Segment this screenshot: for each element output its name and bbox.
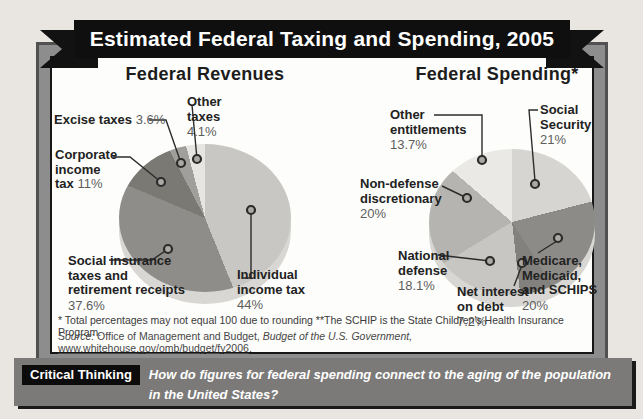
label-national-defense-value: 18.1% [398,279,460,294]
label-excise-taxes-value: 3.6% [136,112,166,127]
label-social-insurance: Social insurance taxes and retirement re… [68,254,194,313]
ribbon-band: Estimated Federal Taxing and Spending, 2… [74,20,570,58]
source-publication: Budget of the U.S. Government, [263,330,412,342]
label-corporate-tax: Corporate income tax 11% [55,148,115,192]
label-social-security-value: 21% [540,133,598,148]
label-other-entitlements: Other entitlements 13.7% [390,108,478,153]
label-social-security-name: Social Security [540,102,591,132]
textbook-figure-page: Federal Revenues Federal Spending* [0,0,643,419]
label-individual-tax-name: Individual income tax [237,267,305,297]
source-suffix: . [249,342,252,354]
label-national-defense-name: National defense [398,248,449,278]
label-corporate-tax-value: 11% [77,176,102,191]
label-excise-taxes: Excise taxes 3.6% [54,113,165,128]
label-non-defense-value: 20% [360,207,452,222]
figure-panel-inner: Federal Revenues Federal Spending* [52,58,592,352]
label-social-insurance-value: 37.6% [68,299,194,314]
label-other-entitlements-name: Other entitlements [390,107,467,137]
label-individual-tax-value: 44% [237,298,319,313]
label-non-defense-name: Non-defense discretionary [360,176,442,206]
figure-panel: Federal Revenues Federal Spending* [50,56,594,354]
title-ribbon: Estimated Federal Taxing and Spending, 2… [40,20,604,70]
label-social-insurance-name: Social insurance taxes and retirement re… [68,253,185,297]
label-other-taxes: Other taxes 4.1% [187,95,235,140]
label-excise-taxes-name: Excise taxes [54,112,132,127]
critical-thinking-question: How do figures for federal spending conn… [149,367,611,402]
label-medicare: Medicare, Medicaid, and SCHIPS 20% [522,254,598,313]
label-individual-tax: Individual income tax 44% [237,268,319,313]
label-medicare-value: 20% [522,299,598,314]
label-net-interest-name: Net interest on debt [457,284,529,314]
label-other-entitlements-value: 13.7% [390,138,478,153]
label-non-defense: Non-defense discretionary 20% [360,177,452,222]
figure-title: Estimated Federal Taxing and Spending, 2… [90,27,555,51]
source-url: www.whitehouse.gov/omb/budget/fy2006 [58,342,249,354]
label-other-taxes-value: 4.1% [187,125,235,140]
label-social-security: Social Security 21% [540,103,598,148]
source-organization: Office of Management and Budget, [94,330,263,342]
critical-thinking-band: Critical Thinking How do figures for fed… [14,358,632,406]
source-line: Source: Office of Management and Budget,… [58,330,586,354]
label-medicare-name: Medicare, Medicaid, and SCHIPS [522,253,597,297]
source-prefix: Source: [58,330,94,342]
label-national-defense: National defense 18.1% [398,249,460,294]
critical-thinking-label: Critical Thinking [22,365,140,385]
label-other-taxes-name: Other taxes [187,94,222,124]
